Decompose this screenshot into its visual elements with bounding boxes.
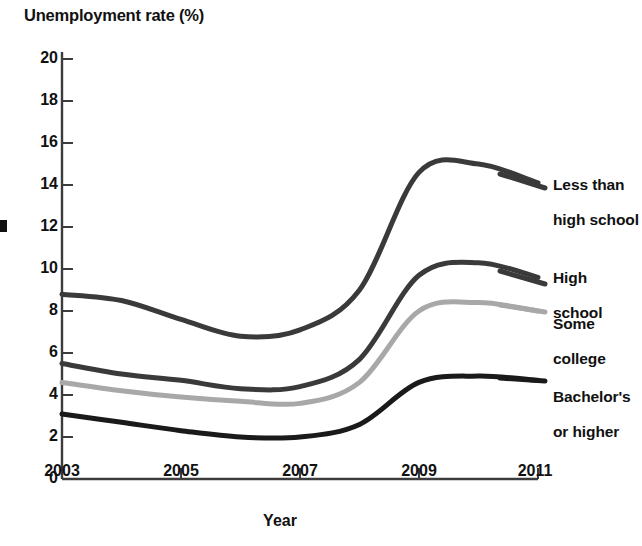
x-tick-2009: 2009 <box>389 462 449 480</box>
series-label-less-than-high-school: Less than high school <box>553 159 639 228</box>
series-label-line1: Bachelor's <box>553 388 631 405</box>
series-label-some-college: Some college <box>553 298 606 367</box>
x-axis-title: Year <box>0 512 560 530</box>
data-series-group <box>62 160 538 439</box>
series-label-line2: high school <box>553 211 639 228</box>
series-label-line2: or higher <box>553 423 619 440</box>
x-tick-2007: 2007 <box>270 462 330 480</box>
x-tick-2011: 2011 <box>505 462 565 480</box>
x-axis-ticks <box>181 468 538 479</box>
leader-bachelors-or-higher <box>500 378 545 381</box>
leader-some-college <box>500 305 545 312</box>
series-label-line1: Some <box>553 315 595 332</box>
series-label-line1: Less than <box>553 176 624 193</box>
series-label-line1: High <box>553 269 587 286</box>
unemployment-rate-line-chart: Unemployment rate (%) 20 18 16 14 12 10 … <box>0 0 642 546</box>
series-line-high-school <box>62 262 538 390</box>
series-line-less-than-high-school <box>62 160 538 337</box>
x-tick-2005: 2005 <box>151 462 211 480</box>
x-tick-2003: 2003 <box>32 462 92 480</box>
series-label-line2: college <box>553 350 606 367</box>
series-label-bachelors-or-higher: Bachelor's or higher <box>553 371 631 440</box>
